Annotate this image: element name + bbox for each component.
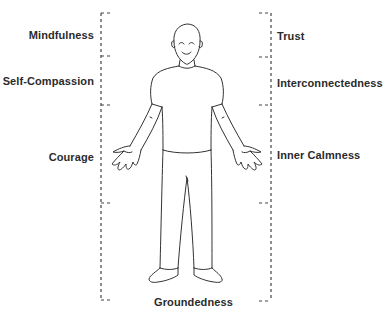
human-figure-icon	[112, 24, 262, 282]
foot-left-icon	[149, 268, 178, 282]
right-bracket	[259, 13, 271, 301]
collar	[179, 66, 195, 68]
arm-left-outer	[130, 104, 152, 146]
elbow-right	[222, 117, 224, 118]
neck-right	[194, 60, 195, 66]
label-mindfulness: Mindfulness	[29, 29, 94, 42]
palm-left-line	[124, 151, 132, 153]
shoulder-right	[195, 66, 223, 104]
shirt-hem	[163, 150, 211, 153]
hand-left-icon	[112, 146, 141, 170]
arm-right-inner	[212, 107, 233, 150]
label-courage: Courage	[49, 151, 94, 164]
pants-left-outer	[160, 150, 163, 268]
eye-right	[189, 43, 194, 45]
shoulder-left	[151, 66, 179, 104]
left-bracket	[101, 13, 113, 300]
sleeve-right-hem	[212, 104, 222, 107]
elbow-left	[150, 117, 152, 118]
smile	[182, 52, 191, 54]
foot-right-icon	[194, 268, 222, 282]
label-trust: Trust	[277, 30, 304, 43]
pant-cuff-right	[194, 268, 212, 270]
pants-right-outer	[211, 150, 212, 268]
arm-right-outer	[222, 104, 244, 146]
palm-right-line	[242, 151, 250, 153]
torso-right	[211, 107, 212, 150]
torso-left	[162, 107, 163, 150]
sleeve-left-hem	[152, 104, 162, 107]
hand-right-icon	[233, 146, 262, 170]
head-icon	[174, 24, 200, 64]
arm-left-inner	[141, 107, 162, 150]
label-interconnectedness: Interconnectedness	[277, 77, 383, 90]
pant-cuff-left	[160, 268, 178, 270]
eye-left	[179, 43, 184, 45]
label-groundedness: Groundedness	[0, 296, 387, 309]
neck-left	[179, 60, 180, 66]
label-inner-calmness: Inner Calmness	[277, 149, 360, 162]
pants-right-inner	[187, 178, 194, 268]
label-self-compassion: Self-Compassion	[3, 75, 94, 88]
pants-left-inner	[178, 178, 187, 268]
body-map-diagram: Mindfulness Self-Compassion Courage Trus…	[0, 0, 387, 316]
